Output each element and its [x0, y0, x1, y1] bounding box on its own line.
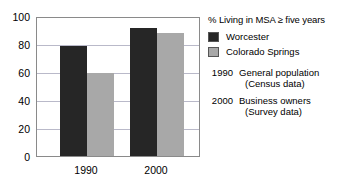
bar-colorado-springs-2000	[157, 33, 184, 156]
y-axis-tick-label: 40	[0, 96, 30, 106]
dark-swatch-icon	[208, 32, 219, 42]
y-axis-tick-label: 0	[0, 152, 30, 162]
legend-label: Worcester	[226, 31, 269, 42]
note-row-1990: 1990 General population (Census data)	[208, 67, 349, 89]
y-axis-tick-label: 20	[0, 124, 30, 134]
note-text: Business owners (Survey data)	[239, 95, 311, 117]
note-year: 2000	[208, 95, 233, 117]
note-line-primary: Business owners	[239, 95, 311, 106]
note-year: 1990	[208, 67, 233, 89]
plot-area	[36, 17, 200, 157]
legend-label: Colorado Springs	[226, 46, 299, 57]
gray-swatch-icon	[208, 47, 219, 57]
legend-entry-colorado-springs: Colorado Springs	[208, 46, 349, 57]
x-axis-tick-label: 1990	[56, 164, 116, 176]
note-row-2000: 2000 Business owners (Survey data)	[208, 95, 349, 117]
y-axis-tick-label: 60	[0, 68, 30, 78]
note-line-primary: General population	[239, 67, 319, 78]
y-axis-tick-label: 80	[0, 40, 30, 50]
y-axis-tick-label: 100	[0, 12, 30, 22]
note-text: General population (Census data)	[239, 67, 319, 89]
legend-panel: % Living in MSA ≥ five years Worcester C…	[208, 14, 349, 123]
bar-worcester-1990	[60, 46, 87, 156]
notes-block: 1990 General population (Census data) 20…	[208, 67, 349, 117]
bar-worcester-2000	[130, 28, 157, 156]
note-line-secondary: (Survey data)	[239, 106, 311, 117]
note-line-secondary: (Census data)	[239, 78, 319, 89]
bars-layer	[37, 18, 199, 156]
bar-group-1990	[60, 18, 114, 156]
chart-title: % Living in MSA ≥ five years	[208, 14, 349, 25]
chart-screenshot: 100 80 60 40 20 0 1990 2000 % Living in …	[0, 0, 349, 192]
bar-colorado-springs-1990	[87, 73, 114, 156]
x-axis-tick-label: 2000	[126, 164, 186, 176]
bar-group-2000	[130, 18, 184, 156]
legend-entry-worcester: Worcester	[208, 31, 349, 42]
